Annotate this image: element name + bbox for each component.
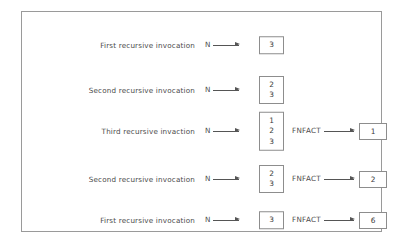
fnfact-result-group: FNFACT1: [292, 126, 387, 136]
stack-cell: 2: [269, 169, 274, 180]
n-variable-label: N: [205, 41, 210, 48]
fnfact-result-box: 6: [359, 212, 387, 229]
arrow-right-icon: [324, 131, 354, 132]
stack-cell: 1: [269, 115, 274, 126]
arrow-right-icon: [213, 131, 239, 132]
n-variable-label: N: [205, 175, 210, 182]
fnfact-result-group: FNFACT2: [292, 174, 387, 184]
invocation-label: First recursive invocation: [100, 41, 195, 50]
arrow-right-icon: [213, 179, 239, 180]
n-parameter-group: N: [205, 126, 239, 136]
stack-cell: 3: [269, 215, 274, 226]
invocation-label: Third recursive invaction: [102, 127, 195, 136]
stack-cell: 3: [269, 40, 274, 51]
stack-cell: 2: [269, 80, 274, 91]
arrow-right-icon: [324, 179, 354, 180]
stack-cell: 3: [269, 179, 274, 190]
arrow-right-icon: [213, 220, 239, 221]
recursion-trace-rows: First recursive invocationN3FNFACTSecond…: [22, 12, 381, 231]
invocation-label: Second recursive invocation: [89, 86, 195, 95]
fnfact-label: FNFACT: [292, 216, 321, 223]
n-variable-label: N: [205, 216, 210, 223]
n-parameter-group: N: [205, 85, 239, 95]
n-stack-box: 123: [259, 112, 284, 151]
fnfact-result-box: 1: [359, 123, 387, 140]
n-stack-box: 23: [259, 76, 284, 104]
figure-frame: First recursive invocationN3FNFACTSecond…: [21, 11, 382, 232]
n-parameter-group: N: [205, 215, 239, 225]
arrow-right-icon: [324, 220, 354, 221]
fnfact-label: FNFACT: [292, 175, 321, 182]
n-stack-box: 3: [259, 211, 284, 229]
n-parameter-group: N: [205, 40, 239, 50]
stack-cell: 3: [269, 90, 274, 101]
fnfact-result-group: FNFACT6: [292, 215, 387, 225]
stack-cell: 2: [269, 126, 274, 137]
n-variable-label: N: [205, 86, 210, 93]
arrow-right-icon: [213, 45, 239, 46]
n-stack-box: 23: [259, 165, 284, 193]
n-stack-box: 3: [259, 36, 284, 54]
n-variable-label: N: [205, 127, 210, 134]
fnfact-label: FNFACT: [292, 127, 321, 134]
stack-cell: 3: [269, 136, 274, 147]
fnfact-result-box: 2: [359, 171, 387, 188]
invocation-label: Second recursive invocation: [89, 175, 195, 184]
n-parameter-group: N: [205, 174, 239, 184]
arrow-right-icon: [213, 90, 239, 91]
invocation-label: First recursive invocation: [100, 216, 195, 225]
